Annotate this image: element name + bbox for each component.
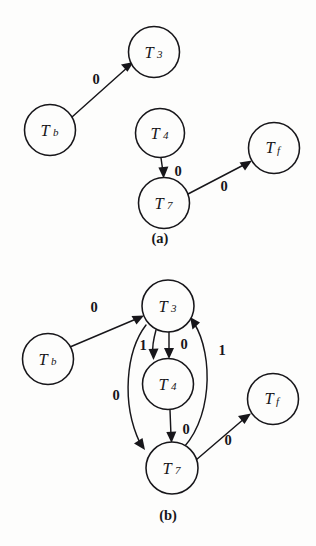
edge-b-t3-t4-right-label: 0	[180, 336, 187, 352]
node-a-t7-circle[interactable]	[139, 178, 190, 229]
caption-b: (b)	[159, 507, 177, 524]
node-b-t4[interactable]: T 4	[143, 359, 194, 410]
edge-b-t3-t7-curve-label: 0	[112, 387, 119, 403]
caption-a: (a)	[152, 230, 169, 247]
arrowhead-icon	[190, 317, 200, 330]
edge-b-t7-tf-line	[196, 418, 245, 460]
edge-b-t7-tf: 0	[196, 414, 251, 461]
edge-a-t4-t7: 0	[158, 158, 181, 179]
arrowhead-icon	[134, 438, 145, 450]
arrowhead-icon	[158, 167, 168, 179]
node-b-t4-circle[interactable]	[143, 359, 194, 410]
node-a-tb-subscript: b	[53, 126, 59, 138]
node-b-t4-subscript: 4	[171, 380, 177, 392]
edge-a-tb-t3-label: 0	[92, 71, 99, 87]
state-diagram-b: 0 1 0 0	[0, 273, 316, 546]
figure-b: 0 1 0 0	[0, 273, 316, 546]
edge-b-t7-tf-label: 0	[224, 432, 231, 448]
edge-b-tb-t3: 0	[70, 299, 144, 347]
node-a-t3[interactable]: T 3	[129, 27, 180, 78]
edge-a-t7-tf-label: 0	[220, 178, 227, 194]
state-diagram-a: 0 0 0 T b T	[0, 0, 316, 273]
edge-b-t4-t7: 0	[166, 410, 189, 443]
arrowhead-icon	[164, 348, 174, 359]
node-a-t4-subscript: 4	[163, 129, 169, 141]
node-b-t3-circle[interactable]	[142, 280, 194, 332]
node-b-tb-subscript: b	[51, 355, 57, 367]
edge-b-t4-t7-label: 0	[182, 421, 189, 437]
node-b-t3-subscript: 3	[170, 302, 177, 314]
edge-a-t7-tf: 0	[188, 161, 252, 195]
edge-a-tb-t3-line	[72, 67, 129, 118]
node-a-tf[interactable]: T f	[249, 123, 300, 174]
node-a-t3-subscript: 3	[156, 48, 163, 60]
node-a-t4-circle[interactable]	[136, 109, 185, 158]
node-b-tb[interactable]: T b	[23, 334, 74, 385]
node-b-tb-circle[interactable]	[23, 334, 74, 385]
node-a-t7-subscript: 7	[167, 199, 173, 211]
node-a-tb[interactable]: T b	[25, 105, 76, 156]
edge-a-t7-tf-line	[188, 164, 247, 195]
edge-a-tb-t3: 0	[72, 62, 134, 117]
figure-a: 0 0 0 T b T	[0, 0, 316, 273]
edge-b-tb-t3-label: 0	[90, 299, 97, 315]
node-b-tf[interactable]: T f	[248, 374, 299, 425]
node-b-t7[interactable]: T 7	[146, 442, 198, 494]
edge-b-t7-t3-curve-label: 1	[218, 342, 225, 358]
node-b-t7-circle[interactable]	[146, 442, 198, 494]
node-a-t4[interactable]: T 4	[136, 109, 185, 158]
node-a-tb-circle[interactable]	[25, 105, 76, 156]
edge-a-t4-t7-label: 0	[174, 163, 181, 179]
edge-b-tb-t3-line	[70, 318, 139, 347]
edge-b-t3-t4-left-label: 1	[139, 337, 146, 353]
arrowhead-icon	[149, 349, 159, 361]
node-b-t3[interactable]: T 3	[142, 280, 194, 332]
node-a-t3-circle[interactable]	[129, 27, 180, 78]
node-b-t7-subscript: 7	[175, 464, 181, 476]
node-a-t7[interactable]: T 7	[139, 178, 190, 229]
edge-b-t3-t4-right: 0	[164, 331, 188, 359]
figure-page: 0 0 0 T b T	[0, 0, 316, 546]
edge-b-t3-t4-left: 1	[139, 330, 158, 360]
